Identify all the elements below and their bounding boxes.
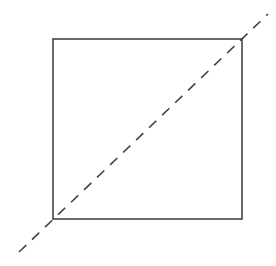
square-outline <box>53 39 242 219</box>
diagram-canvas <box>0 0 276 266</box>
dashed-diagonal-line <box>19 14 268 252</box>
